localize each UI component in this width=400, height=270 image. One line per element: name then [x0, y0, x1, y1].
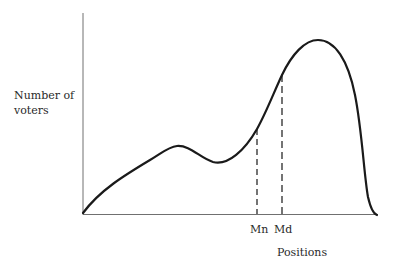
distribution-curve [83, 40, 377, 215]
median-marker-label: Md [274, 222, 292, 237]
distribution-figure: Number of voters Mn Md Positions [0, 0, 400, 270]
distribution-chart [0, 0, 400, 270]
mean-marker-label: Mn [250, 222, 268, 237]
y-axis-label: Number of voters [14, 88, 76, 118]
x-axis-label: Positions [277, 245, 327, 260]
